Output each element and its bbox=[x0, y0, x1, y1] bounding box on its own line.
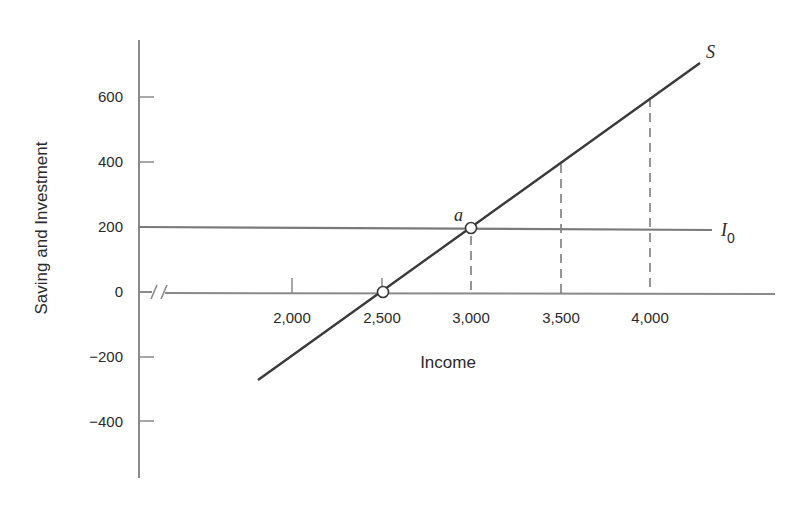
y-axis-title: Saving and Investment bbox=[32, 141, 51, 314]
investment-subscript: 0 bbox=[727, 230, 735, 246]
y-tick-label: −400 bbox=[89, 413, 123, 430]
axis-break-icon bbox=[151, 285, 167, 299]
x-axis bbox=[165, 293, 775, 294]
investment-line bbox=[139, 227, 712, 230]
point-a-label: a bbox=[454, 205, 463, 225]
saving-investment-chart: 600 400 200 0 −200 −400 Saving and Inves… bbox=[0, 0, 803, 508]
dashed-guides bbox=[471, 98, 650, 293]
y-tick-label: 0 bbox=[115, 283, 123, 300]
x-tick-label: 3,500 bbox=[542, 309, 580, 326]
investment-label: I0 bbox=[720, 220, 735, 246]
zero-saving-point bbox=[378, 287, 389, 298]
x-ticks bbox=[292, 278, 382, 293]
y-tick-label: 600 bbox=[98, 88, 123, 105]
y-tick-label: −200 bbox=[89, 348, 123, 365]
x-tick-label: 3,000 bbox=[452, 309, 490, 326]
x-tick-label: 2,000 bbox=[273, 309, 311, 326]
equilibrium-point-a bbox=[466, 223, 477, 234]
x-tick-label: 2,500 bbox=[363, 309, 401, 326]
y-tick-label: 400 bbox=[98, 153, 123, 170]
saving-line bbox=[258, 63, 700, 380]
y-ticks bbox=[139, 97, 154, 421]
saving-label: S bbox=[706, 42, 715, 62]
y-tick-label: 200 bbox=[98, 218, 123, 235]
x-tick-label: 4,000 bbox=[631, 309, 669, 326]
x-axis-title: Income bbox=[420, 353, 476, 372]
